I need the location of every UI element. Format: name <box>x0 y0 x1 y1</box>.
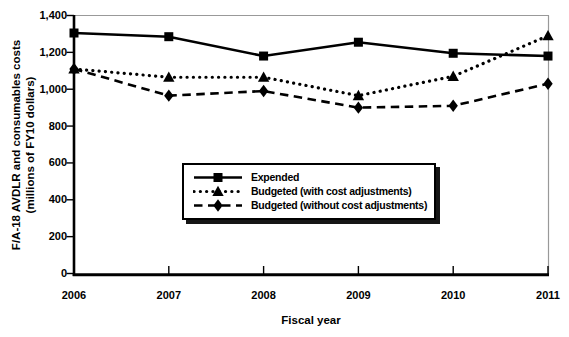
y-tick-label: 1,200 <box>25 46 67 59</box>
data-point-budgeted-without-cost-adjustments <box>449 100 458 112</box>
series-line-expended <box>74 33 548 56</box>
series-line-budgeted-without-cost-adjustments <box>74 69 548 108</box>
legend-solid-line-sample <box>193 171 243 184</box>
data-point-budgeted-without-cost-adjustments <box>354 101 363 113</box>
data-point-budgeted-with-cost-adjustments <box>163 71 174 81</box>
data-point-expended <box>164 32 173 41</box>
data-point-expended <box>354 38 363 47</box>
data-point-budgeted-with-cost-adjustments <box>448 71 459 81</box>
x-tick-label: 2011 <box>526 289 569 302</box>
data-point-budgeted-without-cost-adjustments <box>259 85 268 97</box>
data-point-budgeted-with-cost-adjustments <box>542 30 553 40</box>
y-tick-label: 1,000 <box>25 83 67 96</box>
legend-label: Expended <box>251 171 299 183</box>
x-tick-label: 2009 <box>336 289 380 302</box>
legend-rows: ExpendedBudgeted (with cost adjustments)… <box>193 170 427 212</box>
data-point-expended <box>259 52 268 61</box>
data-point-expended <box>544 52 553 61</box>
y-tick-label: 400 <box>25 193 67 206</box>
y-axis-title-line1: F/A-18 AVDLR and consumables costs <box>10 40 22 250</box>
legend-item-expended: Expended <box>193 170 427 184</box>
x-tick-label: 2006 <box>52 289 96 302</box>
y-tick-label: 600 <box>25 156 67 169</box>
x-axis-title: Fiscal year <box>241 314 381 326</box>
legend-label: Budgeted (with cost adjustments) <box>251 185 412 197</box>
data-point-budgeted-without-cost-adjustments <box>164 89 173 101</box>
y-tick-label: 0 <box>25 267 67 280</box>
legend-square-marker-icon <box>214 173 223 182</box>
legend: ExpendedBudgeted (with cost adjustments)… <box>182 163 436 220</box>
data-point-budgeted-with-cost-adjustments <box>258 71 269 81</box>
legend-item-budgeted-with-cost-adjustments: Budgeted (with cost adjustments) <box>193 184 427 198</box>
chart-figure: F/A-18 AVDLR and consumables costs (mill… <box>0 0 569 337</box>
legend-dashed-line-sample <box>193 199 243 212</box>
x-tick-label: 2008 <box>242 289 286 302</box>
legend-item-budgeted-without-cost-adjustments: Budgeted (without cost adjustments) <box>193 198 427 212</box>
data-point-expended <box>70 29 79 38</box>
data-point-expended <box>449 49 458 58</box>
y-tick-label: 1,400 <box>25 9 67 22</box>
x-tick-label: 2010 <box>431 289 475 302</box>
x-tick-label: 2007 <box>147 289 191 302</box>
legend-label: Budgeted (without cost adjustments) <box>251 199 427 211</box>
y-tick-label: 200 <box>25 230 67 243</box>
y-axis-title: F/A-18 AVDLR and consumables costs (mill… <box>10 0 38 290</box>
series-line-budgeted-with-cost-adjustments <box>74 36 548 96</box>
data-point-budgeted-without-cost-adjustments <box>543 77 552 89</box>
legend-dotted-line-sample <box>193 185 243 198</box>
y-tick-label: 800 <box>25 120 67 133</box>
legend-diamond-marker-icon <box>213 199 222 211</box>
